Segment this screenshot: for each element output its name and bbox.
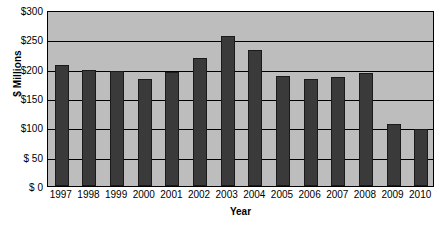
y-axis-tick-labels: $300$250$200$150$100$ 50$ 0 bbox=[0, 0, 46, 225]
bar-series bbox=[48, 12, 433, 186]
bar-chart: $ Millions $300$250$200$150$100$ 50$ 0 1… bbox=[0, 0, 444, 225]
bar bbox=[110, 71, 124, 186]
bar-slot bbox=[186, 12, 214, 186]
x-tick-label: 2001 bbox=[160, 189, 182, 200]
bar bbox=[55, 65, 69, 186]
bar-slot bbox=[214, 12, 242, 186]
bar bbox=[248, 50, 262, 186]
x-tick-label: 1999 bbox=[105, 189, 127, 200]
bar bbox=[221, 36, 235, 186]
bar-slot bbox=[48, 12, 76, 186]
x-tick-label: 2000 bbox=[133, 189, 155, 200]
x-tick-label: 2009 bbox=[381, 189, 403, 200]
bar-slot bbox=[269, 12, 297, 186]
x-axis-tick-labels: 1997199819992000200120022003200420052006… bbox=[47, 189, 434, 205]
plot-area bbox=[47, 11, 434, 187]
bar-slot bbox=[380, 12, 408, 186]
bar-slot bbox=[76, 12, 104, 186]
bar-slot bbox=[297, 12, 325, 186]
bar-slot bbox=[131, 12, 159, 186]
bar bbox=[193, 58, 207, 186]
bar bbox=[304, 79, 318, 186]
y-tick-label: $100 bbox=[21, 123, 43, 134]
bar-slot bbox=[103, 12, 131, 186]
bar bbox=[414, 129, 428, 186]
y-tick-label: $300 bbox=[21, 6, 43, 17]
bar-slot bbox=[324, 12, 352, 186]
x-tick-label: 2007 bbox=[326, 189, 348, 200]
x-axis-title: Year bbox=[47, 206, 434, 217]
x-tick-label: 2002 bbox=[188, 189, 210, 200]
x-tick-label: 2005 bbox=[271, 189, 293, 200]
bar-slot bbox=[407, 12, 435, 186]
y-tick-label: $250 bbox=[21, 35, 43, 46]
y-tick-label: $150 bbox=[21, 94, 43, 105]
bar bbox=[359, 73, 373, 186]
bar-slot bbox=[242, 12, 270, 186]
x-tick-label: 1997 bbox=[50, 189, 72, 200]
x-tick-label: 2006 bbox=[298, 189, 320, 200]
bar-slot bbox=[352, 12, 380, 186]
bar bbox=[82, 70, 96, 186]
bar bbox=[331, 77, 345, 186]
x-tick-label: 2008 bbox=[354, 189, 376, 200]
x-tick-label: 2004 bbox=[243, 189, 265, 200]
x-tick-label: 2003 bbox=[216, 189, 238, 200]
bar bbox=[276, 76, 290, 186]
bar-slot bbox=[159, 12, 187, 186]
y-tick-label: $ 0 bbox=[29, 182, 43, 193]
y-tick-label: $ 50 bbox=[24, 152, 43, 163]
x-tick-label: 2010 bbox=[409, 189, 431, 200]
bar bbox=[138, 79, 152, 186]
y-tick-label: $200 bbox=[21, 64, 43, 75]
bar bbox=[165, 72, 179, 186]
bar bbox=[387, 124, 401, 186]
x-tick-label: 1998 bbox=[77, 189, 99, 200]
